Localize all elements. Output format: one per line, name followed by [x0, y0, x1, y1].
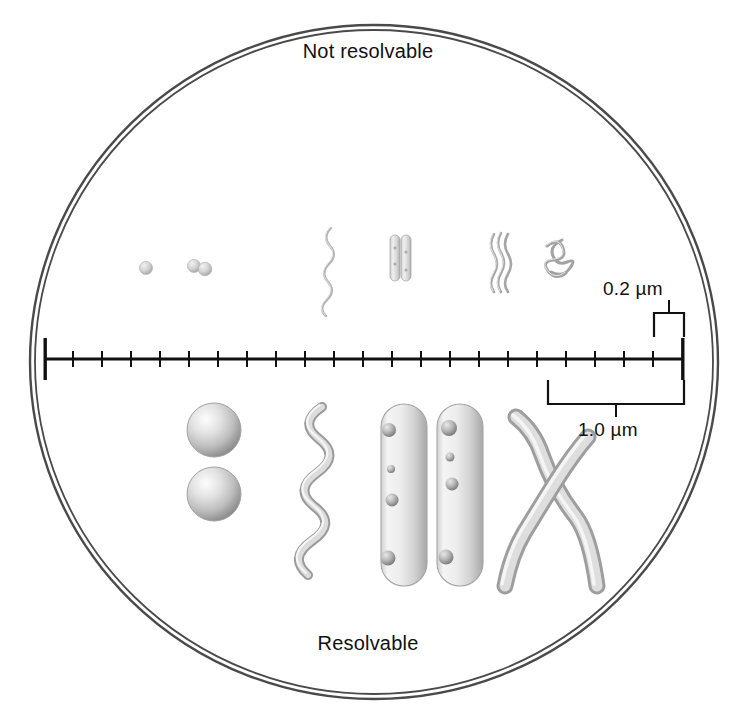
label-not-resolvable: Not resolvable	[0, 40, 736, 63]
label-scale-large: 1.0 µm	[578, 419, 638, 441]
bacillus-large-left	[381, 404, 428, 586]
bacilli-small	[390, 235, 411, 281]
diplococcus-small	[188, 260, 212, 276]
coccus-large-bottom	[187, 467, 241, 521]
bacillus-large-right	[437, 404, 483, 586]
spirochete-small	[321, 227, 333, 316]
label-resolvable: Resolvable	[0, 632, 736, 655]
scale-bracket-small	[654, 300, 684, 337]
scale-bracket-large	[548, 380, 684, 417]
coccus-small	[140, 262, 153, 275]
specimen-group-small	[140, 227, 573, 316]
field-of-view-circle	[30, 25, 718, 699]
label-scale-small: 0.2 µm	[603, 278, 663, 300]
microscope-field-figure: Not resolvable Resolvable 0.2 µm 1.0 µm	[0, 0, 736, 722]
specimen-group-large	[187, 403, 597, 586]
filament-small	[545, 240, 573, 277]
scale-bar-ruler	[44, 338, 684, 380]
spirillum-small	[490, 232, 511, 292]
coccus-large-top	[187, 403, 241, 457]
figure-canvas	[0, 0, 736, 722]
scale-ticks	[73, 351, 653, 367]
spirochete-large	[297, 405, 330, 575]
